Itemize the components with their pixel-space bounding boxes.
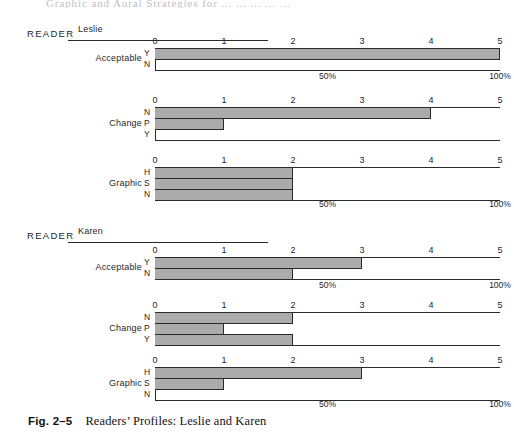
category-labels: YN — [144, 257, 155, 279]
bar — [155, 378, 224, 390]
x-tick-label: 4 — [428, 95, 433, 105]
x-tick-label: 1 — [221, 245, 226, 255]
percent-label-50: 50% — [319, 199, 336, 209]
x-tick-label: 2 — [290, 355, 295, 365]
percent-scale-labels: 50%100% — [155, 399, 500, 411]
chart-title: Graphic — [60, 178, 142, 188]
x-tick-label: 4 — [428, 300, 433, 310]
percent-label-50: 50% — [319, 71, 336, 81]
x-tick-label: 2 — [290, 95, 295, 105]
x-tick-label: 0 — [152, 95, 157, 105]
percent-label-50: 50% — [319, 280, 336, 290]
percent-label-100: 100% — [489, 71, 511, 81]
x-axis-tick-labels: 012345 — [155, 95, 500, 107]
category-label: N — [144, 312, 155, 323]
x-axis-tick-labels: 012345 — [155, 155, 500, 167]
axis-line-bottom — [155, 345, 500, 346]
x-tick-label: 5 — [497, 36, 502, 46]
x-axis-tick-labels: 012345 — [155, 36, 500, 48]
figure-root: Graphic and Aural Strategies for ... ...… — [0, 0, 514, 441]
x-tick-label: 1 — [221, 355, 226, 365]
x-tick-label: 4 — [428, 245, 433, 255]
percent-scale-labels: 50%100% — [155, 71, 500, 83]
x-tick-label: 3 — [359, 245, 364, 255]
percent-label-100: 100% — [489, 280, 511, 290]
category-label: Y — [144, 257, 155, 268]
category-labels: HSN — [144, 367, 155, 400]
x-tick-label: 5 — [497, 95, 502, 105]
chart-title: Acceptable — [60, 53, 142, 63]
x-tick-label: 2 — [290, 36, 295, 46]
category-label: N — [144, 189, 155, 200]
reader-label: READER — [27, 230, 74, 241]
category-label: S — [144, 378, 155, 389]
reader-header: READERKaren — [27, 226, 287, 246]
x-tick-label: 2 — [290, 245, 295, 255]
category-label: Y — [144, 48, 155, 59]
bar — [155, 48, 500, 60]
bar — [155, 118, 224, 130]
category-label: H — [144, 167, 155, 178]
category-label: S — [144, 178, 155, 189]
category-label: N — [144, 389, 155, 400]
x-tick-label: 1 — [221, 36, 226, 46]
x-tick-label: 4 — [428, 155, 433, 165]
x-tick-label: 0 — [152, 155, 157, 165]
reader-name-rule — [68, 242, 268, 243]
x-tick-label: 0 — [152, 355, 157, 365]
category-labels: YN — [144, 48, 155, 70]
x-tick-label: 0 — [152, 245, 157, 255]
axis-line-bottom — [155, 140, 500, 141]
percent-label-100: 100% — [489, 199, 511, 209]
reader-name-value: Karen — [78, 226, 103, 236]
x-tick-label: 0 — [152, 36, 157, 46]
x-tick-label: 3 — [359, 300, 364, 310]
category-label: Y — [144, 129, 155, 140]
chart-title: Change — [60, 118, 142, 128]
x-tick-label: 1 — [221, 300, 226, 310]
x-tick-label: 3 — [359, 95, 364, 105]
percent-scale-labels: 50%100% — [155, 199, 500, 211]
category-label: H — [144, 367, 155, 378]
category-label: P — [144, 323, 155, 334]
x-tick-label: 3 — [359, 355, 364, 365]
x-tick-label: 0 — [152, 300, 157, 310]
x-tick-label: 3 — [359, 36, 364, 46]
percent-label-50: 50% — [319, 399, 336, 409]
x-tick-label: 4 — [428, 355, 433, 365]
figure-number: Fig. 2–5 — [28, 415, 72, 427]
category-label: N — [144, 268, 155, 279]
x-tick-label: 5 — [497, 155, 502, 165]
x-tick-label: 4 — [428, 36, 433, 46]
figure-caption-text: Readers’ Profiles: Leslie and Karen — [85, 414, 266, 428]
reader-name-value: Leslie — [78, 24, 103, 34]
x-axis-tick-labels: 012345 — [155, 245, 500, 257]
category-label: N — [144, 107, 155, 118]
percent-scale-labels: 50%100% — [155, 280, 500, 292]
x-tick-label: 2 — [290, 155, 295, 165]
x-tick-label: 1 — [221, 95, 226, 105]
x-axis-tick-labels: 012345 — [155, 355, 500, 367]
category-labels: HSN — [144, 167, 155, 200]
x-tick-label: 2 — [290, 300, 295, 310]
figure-caption: Fig. 2–5Readers’ Profiles: Leslie and Ka… — [28, 414, 266, 429]
x-tick-label: 1 — [221, 155, 226, 165]
category-labels: NPY — [144, 312, 155, 345]
x-tick-label: 5 — [497, 245, 502, 255]
chart-title: Graphic — [60, 378, 142, 388]
x-tick-label: 5 — [497, 300, 502, 310]
percent-label-100: 100% — [489, 399, 511, 409]
x-axis-tick-labels: 012345 — [155, 300, 500, 312]
cropped-body-text-line: Graphic and Aural Strategies for ... ...… — [46, 0, 476, 8]
category-label: Y — [144, 334, 155, 345]
x-tick-label: 5 — [497, 355, 502, 365]
chart-title: Change — [60, 323, 142, 333]
category-labels: NPY — [144, 107, 155, 140]
category-label: N — [144, 59, 155, 70]
reader-label: READER — [27, 28, 74, 39]
category-label: P — [144, 118, 155, 129]
x-tick-label: 3 — [359, 155, 364, 165]
chart-title: Acceptable — [60, 262, 142, 272]
